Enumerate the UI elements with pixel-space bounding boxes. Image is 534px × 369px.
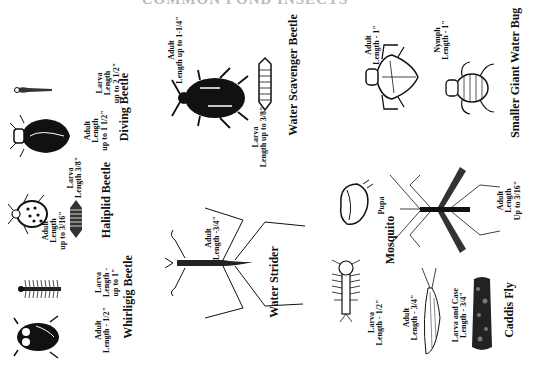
water-strider-adult-label: Adult Length -3/4": [205, 208, 222, 268]
mosquito-adult-illustration: [390, 165, 500, 255]
whirligig-adult-illustration: [14, 312, 59, 362]
whirligig-larva-illustration: [18, 278, 63, 300]
diving-adult-illustration: [10, 113, 72, 159]
giant-water-bug-nymph-illustration: [440, 60, 495, 115]
mosquito-larva-illustration: [330, 260, 362, 322]
mosquito-adult-label: Adult Length Up to 3/16": [497, 173, 522, 228]
caddis-adult-illustration: [418, 268, 446, 356]
mosquito-pupa-illustration: [333, 180, 373, 230]
caddis-larva-case-illustration: [470, 275, 494, 353]
haliplid-larva-label: Larva Length 3/8": [67, 158, 84, 198]
whirligig-name: Whirligig Beetle: [122, 242, 135, 352]
caddis-name: Caddis Fly: [503, 275, 516, 345]
diving-adult-label: Adult Length up to 1 1/2": [84, 103, 109, 158]
document-title: COMMON POND INSECTS: [135, 0, 355, 8]
haliplid-name: Haliplid Beetle: [100, 155, 113, 245]
water-scavenger-name: Water Scavenger Beetle: [287, 10, 300, 140]
giant-water-bug-name: Smaller Giant Water Bug: [509, 8, 522, 138]
whirligig-larva-label: Larva Length - up to 1": [95, 260, 120, 305]
water-strider-illustration: [165, 200, 305, 350]
mosquito-larva-label: Larva Length - 1/2": [368, 295, 385, 350]
diving-larva-illustration: [14, 84, 54, 96]
caddis-larva-label: Larva and Case Length - 3/4": [452, 285, 469, 345]
water-strider-name: Water Strider: [268, 242, 281, 322]
haliplid-larva-illustration: [66, 200, 86, 238]
giant-water-bug-adult-illustration: [362, 45, 422, 110]
diving-name: Diving Beetle: [118, 62, 131, 152]
whirligig-adult-label: Adult Length - 1/2": [95, 305, 112, 355]
water-scavenger-adult-illustration: [170, 68, 250, 128]
haliplid-adult-label: Adult Length up to 3/16": [42, 203, 67, 258]
water-scavenger-larva-label: Larva Length up to 3/8": [252, 102, 269, 172]
giant-water-bug-nymph-label: Nymph Length - 1": [434, 15, 451, 65]
